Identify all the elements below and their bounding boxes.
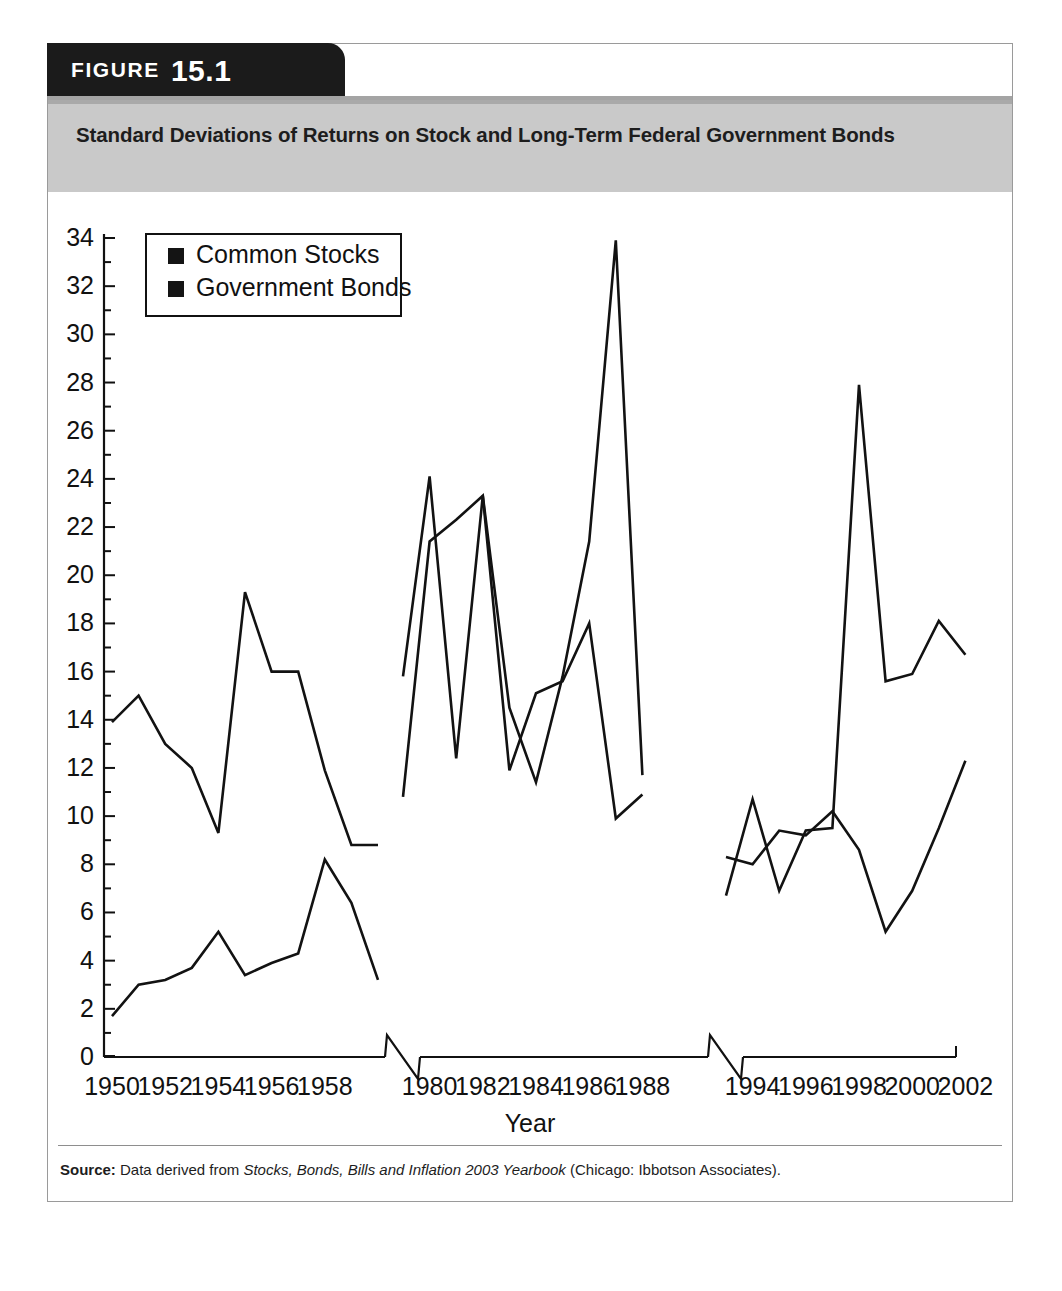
y-tick-label: 2 xyxy=(80,994,94,1022)
line-chart: 0246810121416182022242628303234195019521… xyxy=(48,192,1012,1142)
x-tick-label: 1988 xyxy=(615,1072,671,1100)
series-line-common-stocks-seg1 xyxy=(112,592,378,845)
x-tick-label: 1998 xyxy=(831,1072,887,1100)
figure-title-band: Standard Deviations of Returns on Stock … xyxy=(48,96,1012,192)
y-tick-label: 14 xyxy=(66,705,94,733)
y-tick-label: 34 xyxy=(66,223,94,251)
y-tick-label: 18 xyxy=(66,608,94,636)
y-tick-label: 0 xyxy=(80,1042,94,1070)
series-line-government-bonds-seg1 xyxy=(112,859,378,1016)
x-tick-label: 1994 xyxy=(725,1072,781,1100)
x-axis-title: Year xyxy=(505,1109,556,1137)
x-tick-label: 1956 xyxy=(244,1072,300,1100)
source-prefix: Source: xyxy=(60,1161,116,1178)
x-tick-label: 1996 xyxy=(778,1072,834,1100)
legend-label-2: Government Bonds xyxy=(196,273,411,301)
y-tick-label: 8 xyxy=(80,849,94,877)
x-tick-label: 2000 xyxy=(884,1072,940,1100)
x-tick-label: 1982 xyxy=(455,1072,511,1100)
source-divider xyxy=(58,1145,1002,1146)
y-tick-label: 28 xyxy=(66,368,94,396)
y-tick-label: 26 xyxy=(66,416,94,444)
y-tick-label: 6 xyxy=(80,897,94,925)
x-tick-label: 1952 xyxy=(137,1072,193,1100)
y-tick-label: 22 xyxy=(66,512,94,540)
y-tick-label: 30 xyxy=(66,319,94,347)
series-line-common-stocks-seg3 xyxy=(726,385,965,896)
series-line-government-bonds-seg2 xyxy=(403,496,642,819)
source-text-after: (Chicago: Ibbotson Associates). xyxy=(570,1161,781,1178)
x-tick-label: 1950 xyxy=(84,1072,140,1100)
figure-number: 15.1 xyxy=(171,54,231,88)
figure-label: FIGURE xyxy=(71,58,160,82)
figure-title: Standard Deviations of Returns on Stock … xyxy=(76,122,988,148)
y-tick-label: 24 xyxy=(66,464,94,492)
y-tick-label: 16 xyxy=(66,657,94,685)
x-tick-label: 1954 xyxy=(191,1072,247,1100)
x-tick-label: 2002 xyxy=(938,1072,994,1100)
x-tick-label: 1958 xyxy=(297,1072,353,1100)
y-tick-label: 12 xyxy=(66,753,94,781)
legend-swatch-1 xyxy=(168,248,184,264)
legend-swatch-2 xyxy=(168,281,184,297)
y-tick-label: 32 xyxy=(66,271,94,299)
series-line-government-bonds-seg3 xyxy=(726,761,965,932)
y-tick-label: 10 xyxy=(66,801,94,829)
chart-plot-area: 0246810121416182022242628303234195019521… xyxy=(48,192,1012,1142)
source-publication-title: Stocks, Bonds, Bills and Inflation 2003 … xyxy=(243,1161,565,1178)
x-tick-label: 1986 xyxy=(561,1072,617,1100)
source-text-before: Data derived from xyxy=(120,1161,239,1178)
x-tick-label: 1980 xyxy=(402,1072,458,1100)
y-tick-label: 20 xyxy=(66,560,94,588)
source-note: Source: Data derived from Stocks, Bonds,… xyxy=(60,1160,1004,1180)
figure-number-tab: FIGURE 15.1 xyxy=(47,43,345,96)
x-tick-label: 1984 xyxy=(508,1072,564,1100)
series-line-common-stocks-seg2 xyxy=(403,240,642,782)
y-tick-label: 4 xyxy=(80,946,94,974)
figure-page: FIGURE 15.1 Standard Deviations of Retur… xyxy=(0,0,1062,1291)
legend-label-1: Common Stocks xyxy=(196,240,379,268)
